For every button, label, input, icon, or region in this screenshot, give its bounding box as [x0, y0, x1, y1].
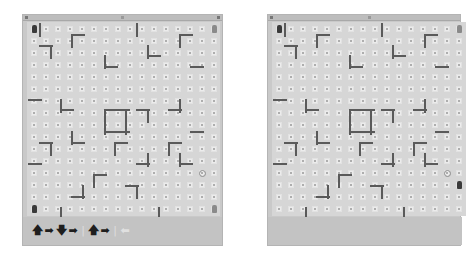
grid-cell[interactable] [442, 84, 452, 94]
left-title-bar[interactable] [23, 15, 222, 21]
grid-cell[interactable] [286, 204, 296, 214]
grid-cell[interactable] [29, 36, 39, 46]
grid-cell[interactable] [125, 192, 135, 202]
grid-cell[interactable] [286, 24, 296, 34]
grid-cell[interactable] [89, 48, 99, 58]
grid-cell[interactable] [65, 204, 75, 214]
grid-cell[interactable] [406, 96, 416, 106]
grid-cell[interactable] [454, 192, 464, 202]
grid-cell[interactable] [298, 156, 308, 166]
grid-cell[interactable] [53, 156, 63, 166]
grid-cell[interactable] [89, 156, 99, 166]
grid-cell[interactable] [113, 60, 123, 70]
grid-cell[interactable] [334, 24, 344, 34]
grid-cell[interactable] [77, 144, 87, 154]
grid-cell[interactable] [209, 96, 219, 106]
grid-cell[interactable] [137, 144, 147, 154]
grid-cell[interactable] [101, 96, 111, 106]
grid-cell[interactable] [406, 60, 416, 70]
grid-cell[interactable] [334, 192, 344, 202]
grid-cell[interactable] [29, 168, 39, 178]
grid-cell[interactable] [65, 132, 75, 142]
grid-cell[interactable] [197, 204, 207, 214]
grid-cell[interactable] [334, 48, 344, 58]
grid-cell[interactable] [101, 180, 111, 190]
grid-cell[interactable] [346, 24, 356, 34]
grid-cell[interactable] [65, 84, 75, 94]
grid-cell[interactable] [286, 72, 296, 82]
grid-cell[interactable] [137, 204, 147, 214]
grid-cell[interactable] [382, 144, 392, 154]
close-icon[interactable] [217, 16, 220, 19]
grid-cell[interactable] [370, 60, 380, 70]
arrow-up-icon[interactable]: 🡅 [88, 225, 98, 237]
grid-cell[interactable] [185, 60, 195, 70]
grid-cell[interactable] [101, 120, 111, 130]
grid-cell[interactable] [298, 180, 308, 190]
grid-cell[interactable] [454, 156, 464, 166]
grid-cell[interactable] [310, 156, 320, 166]
grid-cell[interactable] [358, 72, 368, 82]
grid-cell[interactable] [346, 48, 356, 58]
grid-cell[interactable] [382, 24, 392, 34]
grid-cell[interactable] [41, 120, 51, 130]
grid-cell[interactable] [322, 204, 332, 214]
grid-cell[interactable] [149, 108, 159, 118]
grid-cell[interactable] [406, 120, 416, 130]
grid-cell[interactable] [209, 36, 219, 46]
grid-cell[interactable] [454, 60, 464, 70]
grid-cell[interactable] [101, 60, 111, 70]
grid-cell[interactable] [209, 144, 219, 154]
grid-cell[interactable] [89, 72, 99, 82]
grid-cell[interactable] [418, 48, 428, 58]
grid-cell[interactable] [161, 156, 171, 166]
grid-cell[interactable] [77, 168, 87, 178]
grid-cell[interactable] [406, 156, 416, 166]
grid-cell[interactable] [310, 72, 320, 82]
grid-cell[interactable] [149, 144, 159, 154]
grid-cell[interactable] [161, 96, 171, 106]
grid-cell[interactable] [197, 96, 207, 106]
grid-cell[interactable] [53, 132, 63, 142]
grid-cell[interactable] [149, 96, 159, 106]
grid-cell[interactable] [370, 192, 380, 202]
grid-cell[interactable] [113, 132, 123, 142]
grid-cell[interactable] [185, 120, 195, 130]
grid-cell[interactable] [442, 204, 452, 214]
grid-cell[interactable] [430, 84, 440, 94]
arrow-up-icon[interactable]: 🡅 [32, 225, 42, 237]
grid-cell[interactable] [29, 48, 39, 58]
grid-cell[interactable] [125, 72, 135, 82]
grid-cell[interactable] [101, 144, 111, 154]
grid-cell[interactable] [274, 132, 284, 142]
grid-cell[interactable] [161, 84, 171, 94]
grid-cell[interactable] [161, 204, 171, 214]
grid-cell[interactable] [89, 60, 99, 70]
grid-cell[interactable] [286, 192, 296, 202]
grid-cell[interactable] [418, 120, 428, 130]
grid-cell[interactable] [322, 156, 332, 166]
grid-cell[interactable] [286, 84, 296, 94]
grid-cell[interactable] [29, 132, 39, 142]
grid-cell[interactable] [101, 36, 111, 46]
grid-cell[interactable] [77, 156, 87, 166]
grid-cell[interactable] [101, 132, 111, 142]
grid-cell[interactable] [334, 96, 344, 106]
grid-cell[interactable] [394, 192, 404, 202]
grid-cell[interactable] [346, 60, 356, 70]
grid-cell[interactable] [77, 132, 87, 142]
grid-cell[interactable] [185, 204, 195, 214]
grid-cell[interactable] [149, 168, 159, 178]
grid-cell[interactable] [274, 96, 284, 106]
grid-cell[interactable] [442, 180, 452, 190]
grid-cell[interactable] [149, 156, 159, 166]
grid-cell[interactable] [286, 96, 296, 106]
grid-cell[interactable] [65, 36, 75, 46]
grid-cell[interactable] [454, 120, 464, 130]
arrow-left-icon[interactable]: ⬅ [120, 225, 130, 237]
grid-cell[interactable] [322, 120, 332, 130]
grid-cell[interactable] [358, 84, 368, 94]
grid-cell[interactable] [77, 120, 87, 130]
grid-cell[interactable] [53, 180, 63, 190]
grid-cell[interactable] [454, 96, 464, 106]
